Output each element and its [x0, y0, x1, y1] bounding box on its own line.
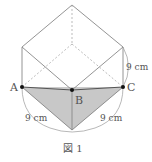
- label-c: C: [127, 81, 135, 94]
- figure-caption: 図 1: [63, 143, 83, 154]
- point-a: [20, 85, 24, 89]
- measure-right-lower: 9 cm: [100, 113, 123, 123]
- measure-right-edge: 9 cm: [126, 62, 149, 72]
- shaded-front-triangle: [22, 87, 123, 130]
- hidden-edges: [22, 5, 123, 87]
- point-b: [70, 88, 74, 92]
- point-c: [121, 85, 125, 89]
- label-b: B: [75, 94, 83, 107]
- label-a: A: [9, 81, 19, 94]
- cube-diagram: A B C 9 cm 9 cm 9 cm 図 1: [0, 0, 152, 162]
- measure-left-lower: 9 cm: [25, 113, 48, 123]
